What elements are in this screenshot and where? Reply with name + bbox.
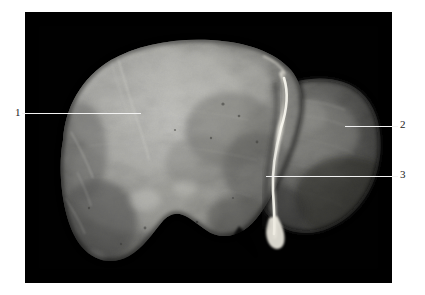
specimen-image — [25, 12, 392, 283]
figure-root: 1 2 3 — [0, 0, 425, 295]
leader-line-3 — [266, 176, 398, 177]
annotation-label-3: 3 — [400, 169, 406, 180]
specimen-photograph-plate — [25, 12, 392, 283]
leader-line-2 — [345, 126, 398, 127]
annotation-label-2: 2 — [400, 119, 406, 130]
liver-specimen-illustration — [25, 12, 392, 283]
annotation-label-1: 1 — [15, 107, 21, 118]
leader-line-1 — [22, 113, 141, 114]
